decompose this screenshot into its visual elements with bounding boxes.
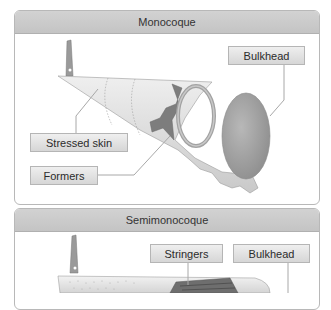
label-stringers: Stringers xyxy=(150,244,223,263)
label-bulkhead-semimonocoque: Bulkhead xyxy=(233,244,310,263)
label-formers: Formers xyxy=(30,166,98,185)
label-bulkhead-monocoque: Bulkhead xyxy=(228,46,305,65)
semimonocoque-skin-shape xyxy=(58,276,270,293)
label-stressed-skin: Stressed skin xyxy=(30,133,128,152)
bulkhead-disc-icon xyxy=(222,93,270,179)
